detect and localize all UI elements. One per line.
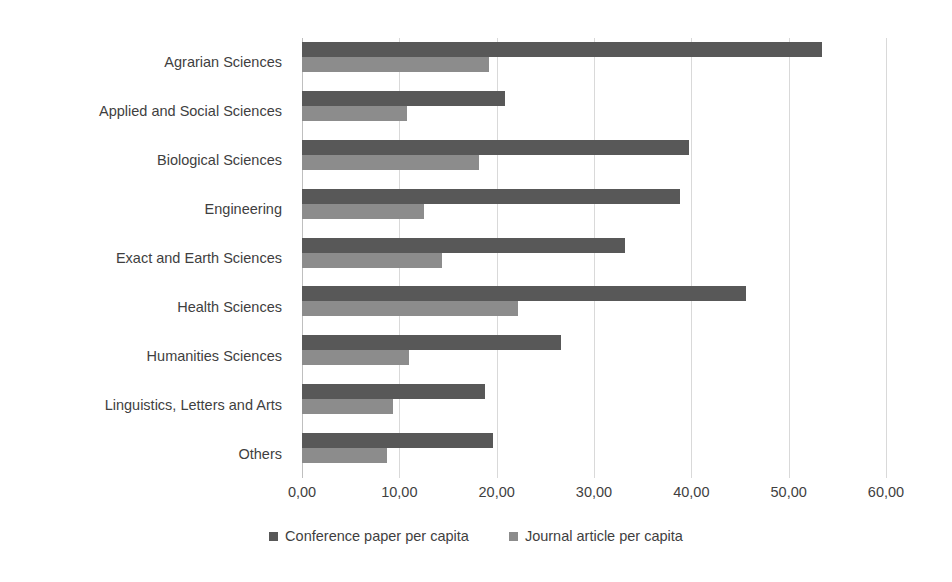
bar — [302, 399, 393, 414]
bar-group — [302, 38, 886, 87]
bar-group — [302, 429, 886, 478]
category-label: Applied and Social Sciences — [99, 87, 282, 136]
category-label: Exact and Earth Sciences — [116, 234, 282, 283]
bar — [302, 433, 493, 448]
category-label: Agrarian Sciences — [164, 38, 282, 87]
bar — [302, 384, 485, 399]
bar — [302, 155, 479, 170]
category-label: Engineering — [205, 185, 282, 234]
bar — [302, 350, 409, 365]
bar-chart: Agrarian SciencesApplied and Social Scie… — [0, 0, 952, 582]
axis-tick-label: 30,00 — [576, 484, 612, 500]
axis-tick-label: 0,00 — [288, 484, 316, 500]
axis-tick-label: 60,00 — [868, 484, 904, 500]
bar-group — [302, 185, 886, 234]
bar-group — [302, 331, 886, 380]
category-label: Linguistics, Letters and Arts — [105, 380, 282, 429]
axis-tick-label: 50,00 — [771, 484, 807, 500]
bar — [302, 253, 442, 268]
bar — [302, 238, 625, 253]
bar-group — [302, 136, 886, 185]
legend-entry[interactable]: Journal article per capita — [509, 528, 683, 544]
bar — [302, 42, 822, 57]
category-label: Humanities Sciences — [147, 331, 282, 380]
bar — [302, 286, 746, 301]
bar — [302, 335, 561, 350]
axis-tick-label: 10,00 — [381, 484, 417, 500]
legend-label: Conference paper per capita — [285, 528, 469, 544]
bar-group — [302, 380, 886, 429]
bar — [302, 91, 505, 106]
chart-legend: Conference paper per capitaJournal artic… — [0, 528, 952, 544]
legend-swatch-icon — [509, 532, 518, 541]
bar — [302, 140, 689, 155]
bar — [302, 57, 489, 72]
legend-swatch-icon — [269, 532, 278, 541]
gridline — [886, 38, 887, 478]
bar-group — [302, 282, 886, 331]
bar — [302, 448, 387, 463]
legend-entry[interactable]: Conference paper per capita — [269, 528, 469, 544]
bar — [302, 189, 680, 204]
axis-tick-label: 20,00 — [479, 484, 515, 500]
axis-tick-label: 40,00 — [673, 484, 709, 500]
category-axis: Agrarian SciencesApplied and Social Scie… — [0, 38, 292, 478]
category-label: Others — [238, 429, 282, 478]
category-label: Biological Sciences — [157, 136, 282, 185]
bar-group — [302, 87, 886, 136]
bar — [302, 204, 424, 219]
category-label: Health Sciences — [177, 282, 282, 331]
plot-area — [302, 38, 886, 478]
bar — [302, 106, 407, 121]
legend-label: Journal article per capita — [525, 528, 683, 544]
bar — [302, 301, 518, 316]
bar-group — [302, 234, 886, 283]
value-axis: 0,0010,0020,0030,0040,0050,0060,00 — [302, 484, 886, 506]
